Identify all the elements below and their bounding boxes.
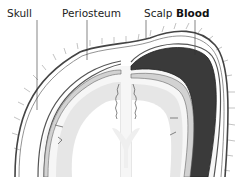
head-cross-section-diagram: [0, 0, 252, 177]
